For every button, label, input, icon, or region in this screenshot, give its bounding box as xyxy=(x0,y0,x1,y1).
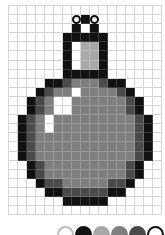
pixel-cell[interactable] xyxy=(90,15,99,24)
pixel-cell[interactable] xyxy=(27,61,36,70)
pixel-cell[interactable] xyxy=(36,197,45,206)
pixel-cell[interactable] xyxy=(108,179,117,188)
pixel-cell[interactable] xyxy=(99,6,108,15)
pixel-cell[interactable] xyxy=(126,188,135,197)
pixel-cell[interactable] xyxy=(18,42,27,51)
pixel-cell[interactable] xyxy=(135,33,144,42)
pixel-cell[interactable] xyxy=(90,197,99,206)
pixel-cell[interactable] xyxy=(144,206,153,215)
pixel-cell[interactable] xyxy=(36,6,45,15)
palette-swatch-light-gray[interactable] xyxy=(93,226,110,235)
pixel-cell[interactable] xyxy=(18,152,27,161)
pixel-cell[interactable] xyxy=(99,24,108,33)
pixel-cell[interactable] xyxy=(108,79,117,88)
pixel-cell[interactable] xyxy=(153,61,162,70)
pixel-cell[interactable] xyxy=(18,61,27,70)
pixel-cell[interactable] xyxy=(99,79,108,88)
pixel-cell[interactable] xyxy=(63,79,72,88)
pixel-cell[interactable] xyxy=(27,79,36,88)
pixel-cell[interactable] xyxy=(54,79,63,88)
pixel-cell[interactable] xyxy=(36,133,45,142)
pixel-cell[interactable] xyxy=(63,179,72,188)
pixel-cell[interactable] xyxy=(63,51,72,60)
pixel-cell[interactable] xyxy=(117,124,126,133)
pixel-cell[interactable] xyxy=(135,88,144,97)
pixel-cell[interactable] xyxy=(135,188,144,197)
pixel-cell[interactable] xyxy=(117,79,126,88)
pixel-cell[interactable] xyxy=(45,170,54,179)
pixel-cell[interactable] xyxy=(126,15,135,24)
pixel-cell[interactable] xyxy=(126,97,135,106)
pixel-cell[interactable] xyxy=(144,33,153,42)
pixel-cell[interactable] xyxy=(81,115,90,124)
pixel-cell[interactable] xyxy=(153,133,162,142)
pixel-cell[interactable] xyxy=(126,170,135,179)
pixel-cell[interactable] xyxy=(90,142,99,151)
pixel-cell[interactable] xyxy=(45,106,54,115)
pixel-cell[interactable] xyxy=(144,97,153,106)
pixel-cell[interactable] xyxy=(135,197,144,206)
pixel-cell[interactable] xyxy=(63,70,72,79)
pixel-cell[interactable] xyxy=(144,24,153,33)
pixel-cell[interactable] xyxy=(54,15,63,24)
pixel-cell[interactable] xyxy=(45,124,54,133)
pixel-cell[interactable] xyxy=(27,152,36,161)
pixel-cell[interactable] xyxy=(153,97,162,106)
pixel-cell[interactable] xyxy=(27,161,36,170)
pixel-cell[interactable] xyxy=(63,24,72,33)
pixel-cell[interactable] xyxy=(90,206,99,215)
pixel-cell[interactable] xyxy=(18,88,27,97)
pixel-cell[interactable] xyxy=(117,152,126,161)
pixel-cell[interactable] xyxy=(54,161,63,170)
pixel-cell[interactable] xyxy=(54,124,63,133)
pixel-cell[interactable] xyxy=(72,51,81,60)
pixel-cell[interactable] xyxy=(18,51,27,60)
pixel-cell[interactable] xyxy=(45,133,54,142)
pixel-cell[interactable] xyxy=(144,188,153,197)
pixel-cell[interactable] xyxy=(153,161,162,170)
pixel-cell[interactable] xyxy=(90,179,99,188)
pixel-cell[interactable] xyxy=(90,88,99,97)
pixel-cell[interactable] xyxy=(126,6,135,15)
pixel-cell[interactable] xyxy=(63,170,72,179)
pixel-cell[interactable] xyxy=(72,179,81,188)
pixel-cell[interactable] xyxy=(72,24,81,33)
pixel-cell[interactable] xyxy=(27,42,36,51)
pixel-cell[interactable] xyxy=(36,142,45,151)
pixel-cell[interactable] xyxy=(117,15,126,24)
pixel-cell[interactable] xyxy=(54,133,63,142)
pixel-cell[interactable] xyxy=(27,179,36,188)
pixel-cell[interactable] xyxy=(153,142,162,151)
pixel-cell[interactable] xyxy=(9,42,18,51)
pixel-cell[interactable] xyxy=(54,188,63,197)
pixel-cell[interactable] xyxy=(45,179,54,188)
pixel-cell[interactable] xyxy=(153,42,162,51)
pixel-cell[interactable] xyxy=(117,51,126,60)
pixel-cell[interactable] xyxy=(144,106,153,115)
pixel-cell[interactable] xyxy=(99,33,108,42)
pixel-cell[interactable] xyxy=(63,124,72,133)
palette-swatch-mid-gray[interactable] xyxy=(111,226,128,235)
pixel-cell[interactable] xyxy=(36,33,45,42)
pixel-cell[interactable] xyxy=(144,124,153,133)
pixel-cell[interactable] xyxy=(117,33,126,42)
pixel-cell[interactable] xyxy=(90,106,99,115)
pixel-cell[interactable] xyxy=(117,142,126,151)
pixel-cell[interactable] xyxy=(135,152,144,161)
pixel-cell[interactable] xyxy=(108,142,117,151)
pixel-cell[interactable] xyxy=(99,51,108,60)
pixel-cell[interactable] xyxy=(81,97,90,106)
pixel-cell[interactable] xyxy=(9,188,18,197)
pixel-cell[interactable] xyxy=(72,142,81,151)
pixel-cell[interactable] xyxy=(117,206,126,215)
pixel-cell[interactable] xyxy=(144,170,153,179)
pixel-cell[interactable] xyxy=(45,88,54,97)
pixel-cell[interactable] xyxy=(9,79,18,88)
pixel-cell[interactable] xyxy=(117,188,126,197)
pixel-grid[interactable] xyxy=(8,5,162,215)
pixel-cell[interactable] xyxy=(99,42,108,51)
pixel-cell[interactable] xyxy=(135,51,144,60)
pixel-cell[interactable] xyxy=(27,24,36,33)
pixel-cell[interactable] xyxy=(18,33,27,42)
pixel-cell[interactable] xyxy=(27,197,36,206)
